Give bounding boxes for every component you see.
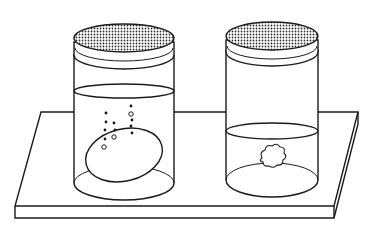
right-lid-top <box>226 22 318 50</box>
left-jar <box>74 24 174 200</box>
right-jar <box>226 22 318 197</box>
figure <box>0 0 372 228</box>
left-lid-top <box>74 24 174 52</box>
